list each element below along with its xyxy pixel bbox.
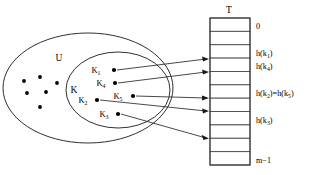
table-slot[interactable] (210, 85, 250, 98)
keyset-ellipse (66, 52, 170, 128)
table-slot[interactable] (210, 125, 250, 138)
slot-label-hk1: h(k1) (256, 49, 273, 59)
arrow-head-icon (202, 108, 209, 113)
hash-function-figure: U K (0, 0, 314, 175)
universe-label: U (56, 53, 63, 63)
universe-dot (22, 79, 26, 83)
arrow-head-icon (202, 69, 209, 74)
mapping-arrow-k2 (100, 100, 209, 114)
slot-label-hk2-eq-hk5: h(k2)=h(k5) (256, 89, 294, 99)
key-k5-label: K5 (113, 91, 122, 102)
keyset-label: K (71, 85, 78, 95)
universe-ellipse (3, 33, 173, 143)
hash-table-group: T 0 h(k1) h(k4) h(k2)=h(k5) (210, 5, 294, 165)
arrow-head-icon (202, 56, 209, 61)
universe-dot (44, 90, 48, 94)
universe-dot (38, 105, 42, 109)
key-k1-label: K1 (91, 65, 100, 76)
key-k5: K5 (113, 91, 135, 102)
universe-dot (55, 81, 59, 85)
key-k3-dot (116, 112, 120, 116)
table-slot[interactable] (210, 58, 250, 71)
mapping-arrow-k3 (121, 114, 209, 140)
key-k1-dot (112, 68, 116, 72)
key-k3: K3 (99, 109, 120, 120)
table-slot[interactable] (210, 98, 250, 111)
key-k2-dot (95, 98, 99, 102)
slot-label-hk3: h(k3) (256, 116, 273, 126)
diagram-canvas: U K (0, 0, 314, 175)
keyset-group: K (66, 52, 170, 128)
hash-table-slots (210, 18, 250, 165)
universe-dot (25, 91, 29, 95)
hash-table-title: T (226, 5, 232, 15)
table-slot[interactable] (210, 45, 250, 58)
table-slot[interactable] (210, 31, 250, 44)
table-slot[interactable] (210, 138, 250, 151)
universe-dot (38, 75, 42, 79)
slot-label-m-minus-1: m−1 (256, 156, 271, 165)
slot-label-hk4: h(k4) (256, 62, 273, 72)
key-k4: K4 (96, 78, 117, 89)
slot-label-0: 0 (256, 22, 260, 31)
key-k4-dot (113, 81, 117, 85)
key-k3-label: K3 (99, 109, 108, 120)
key-k5-dot (131, 94, 135, 98)
universe-set-group: U (3, 33, 173, 143)
arrow-head-icon (202, 96, 209, 101)
key-k4-label: K4 (96, 78, 105, 89)
table-slot[interactable] (210, 18, 250, 31)
table-slot[interactable] (210, 71, 250, 84)
keys-group: K1 K4 K5 K2 K3 (78, 65, 135, 120)
table-slot[interactable] (210, 112, 250, 125)
key-k1: K1 (91, 65, 116, 76)
universe-dots-group (22, 75, 59, 109)
key-k2-label: K2 (78, 95, 87, 106)
key-k2: K2 (78, 95, 99, 106)
mapping-arrow-k5 (136, 96, 209, 101)
hash-table-slot-labels: 0 h(k1) h(k4) h(k2)=h(k5) h(k3) m−1 (256, 22, 294, 165)
arrow-head-icon (202, 135, 209, 140)
mapping-arrow-k1 (117, 56, 209, 70)
table-slot[interactable] (210, 152, 250, 165)
